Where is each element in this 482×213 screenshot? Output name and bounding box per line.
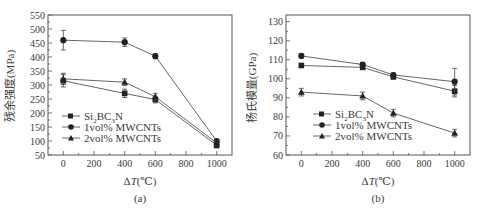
- triangle-marker-icon: [298, 89, 305, 95]
- panel-label-b: (b): [372, 192, 385, 205]
- chart-panel-b: 0200400600800100060708090100110120130 Si…: [245, 15, 470, 205]
- x-axis-label-a: ΔT(℃): [124, 175, 157, 188]
- y-tick-label: 120: [268, 35, 283, 46]
- x-tick-label: 1000: [445, 158, 465, 169]
- y-tick-label: 100: [268, 73, 283, 84]
- circle-marker-icon: [60, 37, 66, 43]
- circle-marker-icon: [68, 124, 74, 130]
- y-tick-label: 500: [30, 24, 45, 35]
- x-tick-label: 400: [117, 158, 132, 169]
- circle-marker-icon: [452, 79, 458, 85]
- y-tick-label: 130: [268, 16, 283, 27]
- y-tick-label: 100: [30, 136, 45, 147]
- y-tick-label: 70: [273, 130, 283, 141]
- circle-marker-icon: [360, 61, 366, 67]
- square-marker-icon: [299, 63, 305, 69]
- y-tick-label: 60: [273, 150, 283, 161]
- circle-marker-icon: [122, 39, 128, 45]
- y-tick-label: 400: [30, 52, 45, 63]
- y-tick-label: 80: [273, 111, 283, 122]
- y-tick-label: 550: [30, 10, 45, 21]
- y-tick-label: 110: [268, 54, 283, 65]
- legend-label-s3: 2vol% MWCNTs: [84, 132, 161, 144]
- x-tick-label: 200: [87, 158, 102, 169]
- x-axis-label-b: ΔT(℃): [362, 175, 395, 188]
- x-tick-label: 800: [179, 158, 194, 169]
- triangle-marker-icon: [390, 110, 397, 116]
- square-marker-icon: [68, 114, 73, 119]
- y-axis-label-a: 残余强度(MPa): [3, 50, 17, 122]
- series-line: [301, 56, 454, 82]
- y-tick-label: 350: [30, 66, 45, 77]
- plot-area-b: 0200400600800100060708090100110120130: [268, 15, 470, 169]
- figure: 0200400600800100050100150200250300350400…: [0, 0, 482, 213]
- x-tick-label: 600: [386, 158, 401, 169]
- x-tick-label: 800: [417, 158, 432, 169]
- y-tick-label: 150: [30, 122, 45, 133]
- plot-area-a: 0200400600800100050100150200250300350400…: [30, 10, 232, 170]
- x-tick-label: 400: [355, 158, 370, 169]
- y-axis-label-b: 杨氏模量(GPa): [245, 53, 259, 124]
- x-tick-label: 1000: [207, 158, 227, 169]
- y-tick-label: 90: [273, 92, 283, 103]
- legend-b: Si2BC3N 1vol% MWCNTs 2vol% MWCNTs: [313, 108, 412, 142]
- y-tick-label: 50: [35, 150, 45, 161]
- circle-marker-icon: [298, 53, 304, 59]
- y-tick-label: 250: [30, 94, 45, 105]
- circle-marker-icon: [152, 53, 158, 59]
- circle-marker-icon: [390, 72, 396, 78]
- panel-label-a: (a): [134, 192, 147, 205]
- x-tick-label: 600: [148, 158, 163, 169]
- y-tick-label: 450: [30, 38, 45, 49]
- square-marker-icon: [319, 112, 324, 117]
- x-tick-label: 200: [325, 158, 340, 169]
- y-tick-label: 300: [30, 80, 45, 91]
- circle-marker-icon: [319, 122, 325, 128]
- y-tick-label: 200: [30, 108, 45, 119]
- chart-panel-a: 0200400600800100050100150200250300350400…: [3, 10, 232, 206]
- series-2: [298, 53, 458, 95]
- legend-label-s3: 2vol% MWCNTs: [335, 130, 412, 142]
- square-marker-icon: [122, 91, 128, 97]
- x-tick-label: 0: [299, 158, 304, 169]
- legend-a: Si2BC3N 1vol% MWCNTs 2vol% MWCNTs: [62, 110, 161, 144]
- x-tick-label: 0: [61, 158, 66, 169]
